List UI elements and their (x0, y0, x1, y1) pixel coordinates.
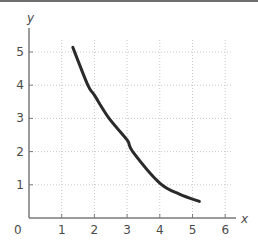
grid-lines (29, 38, 232, 218)
x-tick-label: 2 (91, 223, 99, 237)
y-tick-label: 5 (16, 45, 24, 59)
origin-label: 0 (14, 223, 22, 237)
data-curve (73, 47, 200, 201)
x-tick-label: 6 (221, 223, 229, 237)
axes (29, 28, 236, 218)
y-axis-label: y (26, 11, 35, 25)
x-tick-label: 1 (58, 223, 66, 237)
y-tick-label: 1 (16, 178, 24, 192)
tick-labels: 12345612345 (16, 45, 229, 237)
x-tick-label: 4 (156, 223, 164, 237)
y-tick-label: 4 (16, 78, 24, 92)
line-chart: 12345612345 x y 0 (0, 0, 258, 247)
y-tick-label: 3 (16, 111, 24, 125)
y-tick-label: 2 (16, 145, 24, 159)
x-axis-label: x (240, 212, 249, 226)
x-tick-label: 5 (189, 223, 197, 237)
x-tick-label: 3 (123, 223, 131, 237)
